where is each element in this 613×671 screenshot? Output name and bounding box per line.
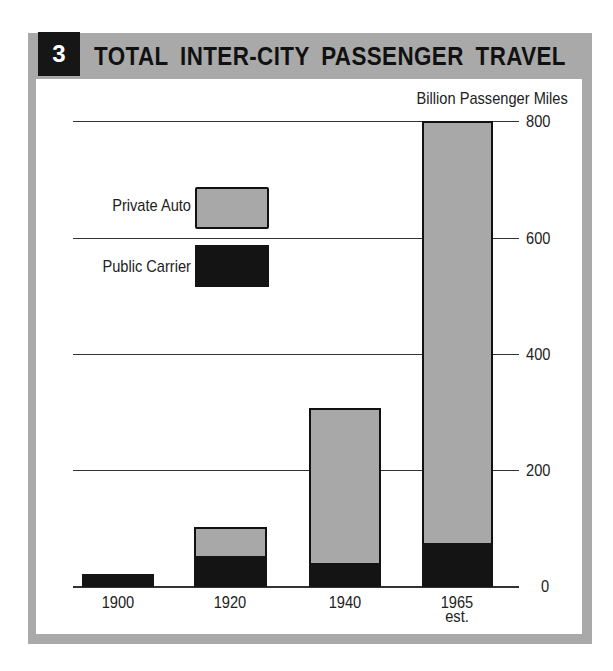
x-label-1900-text: 1900 xyxy=(84,596,153,610)
legend-label-private-auto: Private Auto xyxy=(79,196,191,216)
figure-number: 3 xyxy=(38,32,80,76)
bar-1965-public-carrier xyxy=(422,543,493,587)
legend-swatch-private-auto xyxy=(195,187,269,229)
bar-1920-private-auto xyxy=(194,527,267,558)
x-label-1965-note: est. xyxy=(423,610,492,624)
chart-panel: Billion Passenger Miles 800 600 400 200 … xyxy=(36,79,582,634)
chart-title: TOTAL INTER-CITY PASSENGER TRAVEL xyxy=(94,33,566,77)
y-axis-label: Billion Passenger Miles xyxy=(417,89,568,109)
x-label-1940: 1940 xyxy=(305,596,385,610)
x-label-1900: 1900 xyxy=(78,596,158,610)
bar-1900-public-carrier xyxy=(82,574,154,587)
x-label-1965: 1965 est. xyxy=(417,596,497,624)
x-label-1920: 1920 xyxy=(190,596,270,610)
x-label-1920-text: 1920 xyxy=(196,596,265,610)
y-tick-600: 600 xyxy=(526,229,550,249)
bar-1920-public-carrier xyxy=(194,556,267,587)
legend-label-public-carrier: Public Carrier xyxy=(79,257,191,277)
bar-1940-public-carrier xyxy=(309,563,381,587)
y-tick-400: 400 xyxy=(526,345,550,365)
x-label-1940-text: 1940 xyxy=(311,596,380,610)
figure-frame: 3 TOTAL INTER-CITY PASSENGER TRAVEL Bill… xyxy=(28,33,592,644)
y-tick-800: 800 xyxy=(526,112,550,132)
bar-1900 xyxy=(82,574,154,587)
bar-1940 xyxy=(309,408,381,587)
bar-1920 xyxy=(194,527,267,587)
bar-1940-private-auto xyxy=(309,408,381,565)
title-bar: 3 TOTAL INTER-CITY PASSENGER TRAVEL xyxy=(28,33,592,79)
bar-1965-private-auto xyxy=(422,121,493,545)
y-tick-200: 200 xyxy=(526,461,550,481)
y-tick-0: 0 xyxy=(541,577,549,597)
bar-1965 xyxy=(422,121,493,587)
legend-swatch-public-carrier xyxy=(195,245,269,287)
